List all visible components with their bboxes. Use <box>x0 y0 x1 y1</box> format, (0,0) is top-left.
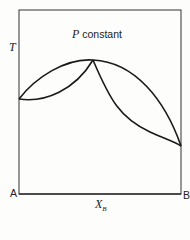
x-axis-subscript: B <box>102 205 106 213</box>
upper-curve-right <box>93 60 181 146</box>
x-axis-label: XB <box>95 197 107 213</box>
title-text: constant <box>79 28 122 40</box>
component-a-label: A <box>10 187 17 199</box>
diagram-title: P constant <box>72 27 122 42</box>
component-b-label: B <box>183 189 190 201</box>
y-axis-label: T <box>9 40 16 55</box>
lower-curve-left <box>19 60 93 100</box>
lower-curve-right <box>93 60 181 146</box>
